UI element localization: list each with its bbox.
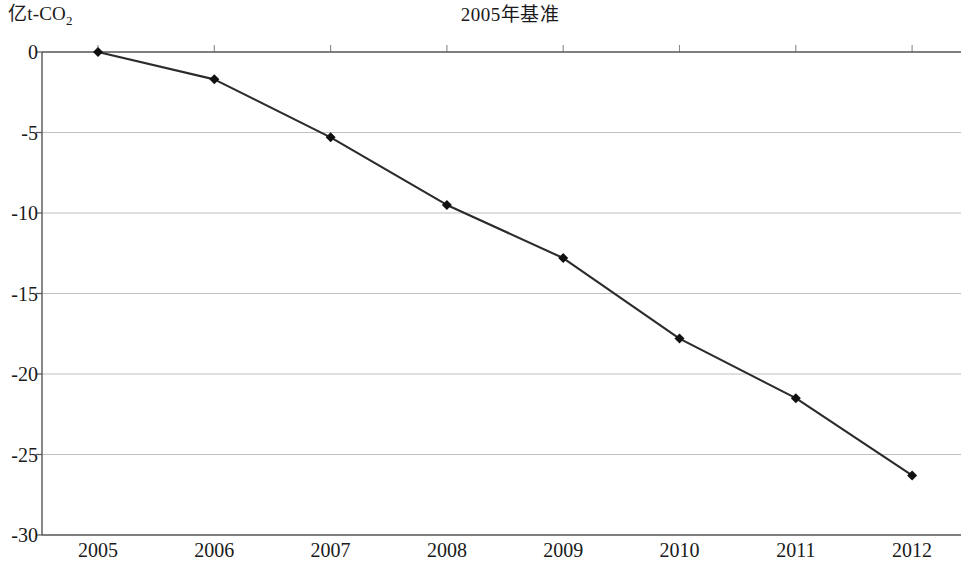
y-tick-label: 0 — [2, 42, 38, 62]
x-tick-label: 2005 — [53, 540, 143, 561]
x-tick-label: 2007 — [286, 540, 376, 561]
y-axis-labels: 0-5-10-15-20-25-30 — [0, 0, 38, 569]
x-tick-label: 2008 — [402, 540, 492, 561]
data-point-marker — [442, 200, 452, 210]
x-axis-ticks — [98, 45, 912, 52]
y-tick-label: -20 — [2, 364, 38, 384]
y-tick-label: -5 — [2, 123, 38, 143]
x-tick-label: 2009 — [518, 540, 608, 561]
plot-area — [0, 0, 962, 569]
data-line-series-1 — [98, 52, 912, 475]
x-axis-labels: 20052006200720082009201020112012 — [0, 540, 962, 569]
data-point-marker — [326, 132, 336, 142]
gridlines — [42, 133, 961, 455]
x-tick-label: 2011 — [751, 540, 841, 561]
y-tick-label: -10 — [2, 203, 38, 223]
line-chart: 亿t-CO2 2005年基准 0-5-10-15-20-25-30 200520… — [0, 0, 962, 569]
data-point-marker — [93, 47, 103, 57]
y-tick-label: -25 — [2, 445, 38, 465]
x-tick-label: 2012 — [867, 540, 957, 561]
data-markers — [93, 47, 917, 480]
y-tick-label: -15 — [2, 284, 38, 304]
data-point-marker — [209, 74, 219, 84]
x-tick-label: 2006 — [169, 540, 259, 561]
x-tick-label: 2010 — [635, 540, 725, 561]
